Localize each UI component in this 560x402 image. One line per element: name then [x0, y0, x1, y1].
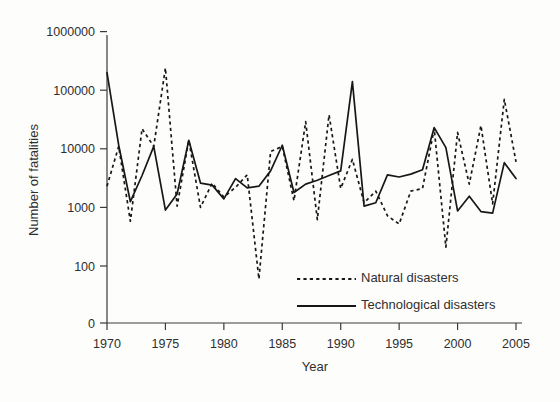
chart-figure: 01001000100001000001000000 1970197519801…	[0, 0, 560, 402]
x-tick-label: 1975	[152, 337, 180, 351]
fatalities-line-chart: 01001000100001000001000000 1970197519801…	[0, 0, 560, 402]
x-tick-label: 1985	[268, 337, 296, 351]
x-axis-title: Year	[302, 359, 329, 374]
x-tick-label: 1980	[210, 337, 238, 351]
legend-label-natural-disasters: Natural disasters	[361, 270, 459, 285]
y-tick-label: 1000000	[46, 25, 95, 39]
x-tick-label: 1995	[385, 337, 413, 351]
y-axis-title: Number of fatalities	[26, 124, 41, 236]
x-tick-label: 2000	[444, 337, 472, 351]
y-tick-label: 10000	[60, 142, 95, 156]
y-tick-label: 1000	[67, 201, 95, 215]
x-tick-label: 2005	[502, 337, 530, 351]
y-tick-label: 0	[88, 317, 95, 331]
x-tick-label: 1990	[327, 337, 355, 351]
x-tick-label: 1970	[93, 337, 121, 351]
y-tick-label: 100000	[53, 84, 95, 98]
legend-label-technological-disasters: Technological disasters	[361, 297, 496, 312]
y-tick-label: 100	[74, 260, 95, 274]
